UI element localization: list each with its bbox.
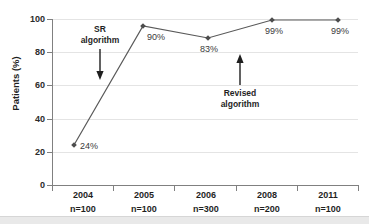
x-category-2005-year: 2005 bbox=[113, 189, 175, 202]
data-point-2004 bbox=[71, 142, 77, 148]
data-label-2004: 24% bbox=[80, 141, 98, 151]
x-category-2006-year: 2006 bbox=[175, 189, 237, 202]
data-label-2006: 83% bbox=[200, 44, 218, 54]
x-category-2008-n: n=200 bbox=[236, 202, 298, 217]
annotation-sr-line2: algorithm bbox=[81, 35, 120, 45]
data-label-2011: 99% bbox=[331, 26, 349, 36]
chart-figure: 100 80 60 40 20 0 Patients (%) 24% 90% 8… bbox=[0, 0, 369, 224]
x-category-2011: 2011 n=100 bbox=[297, 189, 359, 217]
x-category-2005-n: n=100 bbox=[113, 202, 175, 217]
annotation-revised-line2: algorithm bbox=[221, 99, 260, 109]
data-label-2008: 99% bbox=[265, 26, 283, 36]
x-category-2004-year: 2004 bbox=[52, 189, 114, 202]
sr-algorithm-arrow-icon bbox=[96, 49, 103, 80]
x-category-2011-year: 2011 bbox=[297, 189, 359, 202]
data-label-2005: 90% bbox=[147, 32, 165, 42]
data-point-2011 bbox=[335, 17, 341, 23]
x-category-2005: 2005 n=100 bbox=[113, 189, 175, 217]
data-point-2005 bbox=[140, 23, 146, 29]
x-category-2004: 2004 n=100 bbox=[52, 189, 114, 217]
annotation-sr-line1: SR bbox=[94, 24, 106, 34]
annotation-revised-algorithm: Revised algorithm bbox=[200, 88, 280, 110]
x-category-2006: 2006 n=300 bbox=[175, 189, 237, 217]
data-point-2008 bbox=[269, 17, 275, 23]
revised-algorithm-arrow-icon bbox=[236, 54, 243, 85]
data-point-2006 bbox=[205, 35, 211, 41]
x-category-2011-n: n=100 bbox=[297, 202, 359, 217]
x-category-2008-year: 2008 bbox=[236, 189, 298, 202]
x-category-2008: 2008 n=200 bbox=[236, 189, 298, 217]
annotation-revised-line1: Revised bbox=[224, 88, 257, 98]
annotation-sr-algorithm: SR algorithm bbox=[60, 24, 140, 46]
x-category-2004-n: n=100 bbox=[52, 202, 114, 217]
bottom-edge-strip bbox=[0, 216, 369, 224]
x-category-2006-n: n=300 bbox=[175, 202, 237, 217]
